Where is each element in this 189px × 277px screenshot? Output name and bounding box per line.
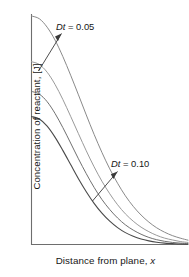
x-axis-label-variable: x bbox=[150, 255, 155, 266]
curve-dt-0-066 bbox=[32, 62, 189, 243]
x-axis-label: Distance from plane, x bbox=[24, 255, 187, 266]
annotation-dt-0-05: Dt = 0.05 bbox=[56, 21, 94, 32]
annotation-dt-0-10: Dt = 0.10 bbox=[111, 158, 149, 169]
plot-area: Dt = 0.05 Dt = 0.10 bbox=[0, 0, 189, 277]
curve-dt-0-05 bbox=[32, 16, 189, 240]
x-axis-label-text: Distance from plane, bbox=[56, 255, 151, 266]
annotation-leader-dt-0-10 bbox=[93, 172, 118, 202]
annotation-leader-dt-0-05 bbox=[39, 34, 62, 72]
y-axis-label: Concentration of reactant, [J] bbox=[31, 27, 42, 227]
diffusion-concentration-chart: Dt = 0.05 Dt = 0.10 Concentration of rea… bbox=[0, 0, 189, 277]
